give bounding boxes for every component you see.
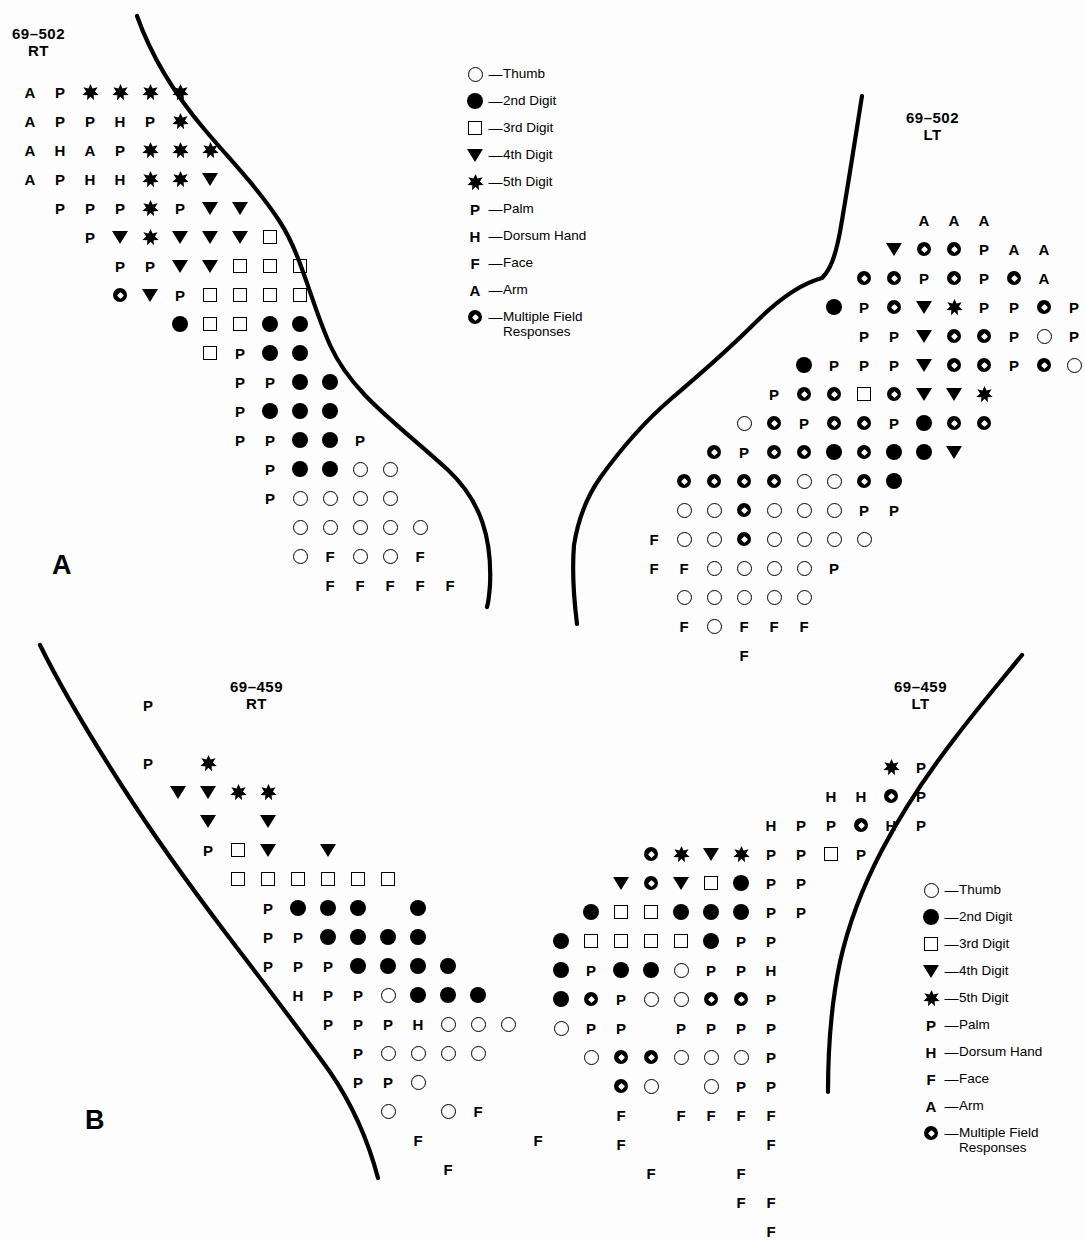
legend-symbol: F — [462, 253, 488, 273]
palm-letter-icon: P — [353, 1017, 363, 1032]
palm-letter-icon: P — [383, 1075, 393, 1090]
receptive-field-point — [407, 1071, 429, 1093]
legend-label: Face — [959, 1069, 989, 1086]
second-digit-filled-circle-icon — [350, 900, 366, 916]
legend-dash: — — [944, 1096, 959, 1116]
receptive-field-point — [880, 785, 902, 807]
receptive-field-point: P — [257, 897, 279, 919]
thumb-open-circle-icon — [441, 1104, 456, 1119]
third-digit-open-square-icon — [233, 317, 247, 331]
legend-symbol — [462, 91, 488, 111]
map-title-case: 69–502 — [906, 110, 959, 127]
receptive-field-point: P — [853, 354, 875, 376]
receptive-field-point: F — [610, 1104, 632, 1126]
face-letter-icon: F — [646, 1166, 655, 1181]
fifth-digit-star-icon — [142, 200, 159, 217]
second-digit-filled-circle-icon — [886, 444, 902, 460]
receptive-field-point — [289, 371, 311, 393]
thumb-open-circle-icon — [293, 491, 308, 506]
receptive-field-point — [850, 814, 872, 836]
second-digit-filled-circle-icon — [673, 904, 689, 920]
receptive-field-point — [580, 988, 602, 1010]
receptive-field-point: F — [640, 1162, 662, 1184]
dorsum-hand-letter-icon: H — [115, 172, 126, 187]
palm-letter-icon: P — [265, 375, 275, 390]
receptive-field-point — [640, 1046, 662, 1068]
receptive-field-point — [289, 284, 311, 306]
third-digit-open-square-icon — [824, 847, 838, 861]
legend-dash: — — [488, 118, 503, 138]
receptive-field-point: P — [1003, 296, 1025, 318]
receptive-field-point: P — [49, 168, 71, 190]
face-letter-icon: F — [766, 1195, 775, 1210]
receptive-field-point: P — [760, 1017, 782, 1039]
receptive-field-point — [943, 296, 965, 318]
legend-dash: — — [944, 934, 959, 954]
second-digit-filled-circle-icon — [172, 316, 188, 332]
receptive-field-point — [610, 1046, 632, 1068]
thumb-open-circle-icon — [707, 532, 722, 547]
receptive-field-point — [670, 959, 692, 981]
receptive-field-point — [259, 400, 281, 422]
receptive-field-point — [199, 168, 221, 190]
second-digit-filled-circle-icon — [553, 962, 569, 978]
receptive-field-point — [913, 238, 935, 260]
palm-letter-icon: P — [769, 387, 779, 402]
receptive-field-point — [139, 226, 161, 248]
receptive-field-point: P — [229, 429, 251, 451]
third-digit-open-square-icon — [203, 288, 217, 302]
thumb-open-circle-icon — [383, 491, 398, 506]
legend-dash: — — [944, 988, 959, 1008]
receptive-field-point — [289, 458, 311, 480]
receptive-field-point: F — [409, 574, 431, 596]
receptive-field-point — [109, 226, 131, 248]
multiple-field-responses-icon — [1037, 358, 1051, 372]
receptive-field-point — [943, 354, 965, 376]
legend-dash: — — [944, 1123, 959, 1143]
receptive-field-point: P — [760, 901, 782, 923]
palm-letter-icon: P — [829, 358, 839, 373]
legend-symbol: F — [918, 1069, 944, 1089]
palm-letter-icon: P — [143, 756, 153, 771]
receptive-field-point — [259, 342, 281, 364]
second-digit-filled-circle-icon — [440, 958, 456, 974]
face-letter-icon: F — [415, 578, 424, 593]
third-digit-open-square-icon — [263, 288, 277, 302]
receptive-field-point — [550, 1017, 572, 1039]
second-digit-filled-circle-icon — [320, 900, 336, 916]
multiple-field-responses-icon — [113, 288, 127, 302]
receptive-field-point — [227, 839, 249, 861]
arm-letter-icon: A — [1039, 242, 1050, 257]
palm-letter-icon: P — [1009, 300, 1019, 315]
fourth-digit-filled-triangle-icon — [467, 149, 483, 162]
receptive-field-point: F — [409, 545, 431, 567]
receptive-field-point — [580, 1046, 602, 1068]
thumb-open-circle-icon — [797, 561, 812, 576]
receptive-field-point — [550, 959, 572, 981]
legend-row: —Thumb — [462, 64, 586, 91]
legend-label: Palm — [503, 199, 534, 216]
receptive-field-point — [883, 296, 905, 318]
legend-symbol — [462, 172, 488, 192]
receptive-field-point: P — [763, 383, 785, 405]
receptive-field-point: F — [407, 1129, 429, 1151]
legend-label: 5th Digit — [959, 988, 1009, 1005]
receptive-field-point — [670, 988, 692, 1010]
fourth-digit-filled-triangle-icon — [202, 260, 218, 273]
multiple-field-responses-icon — [614, 1079, 628, 1093]
third-digit-open-square-icon — [233, 288, 247, 302]
receptive-field-point — [229, 284, 251, 306]
arm-letter-icon: A — [470, 282, 481, 299]
fifth-digit-star-icon — [172, 84, 189, 101]
receptive-field-point — [700, 1075, 722, 1097]
legend-label: 3rd Digit — [503, 118, 553, 135]
receptive-field-point: P — [377, 1071, 399, 1093]
legend-row: F—Face — [918, 1069, 1042, 1096]
palm-letter-icon: P — [766, 1050, 776, 1065]
third-digit-open-square-icon — [203, 317, 217, 331]
receptive-field-point: F — [349, 574, 371, 596]
receptive-field-point — [700, 1046, 722, 1068]
receptive-field-point — [823, 470, 845, 492]
palm-letter-icon: P — [796, 876, 806, 891]
third-digit-open-square-icon — [263, 230, 277, 244]
